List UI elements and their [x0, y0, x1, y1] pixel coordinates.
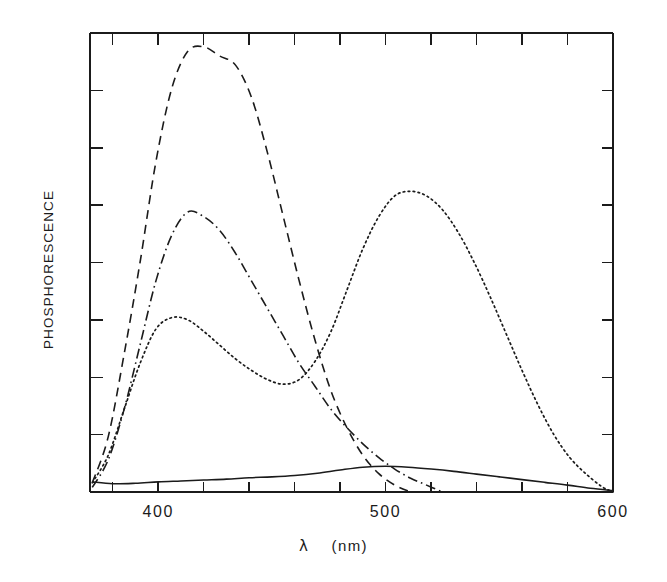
axes-frame [90, 33, 613, 492]
lambda-symbol: λ [299, 537, 309, 555]
curves-layer [92, 46, 613, 492]
plot-canvas [0, 0, 667, 582]
x-tick-label-500: 500 [370, 503, 402, 521]
x-tick-label-600: 600 [597, 503, 629, 521]
solid-baseline-curve [92, 466, 613, 490]
phosphorescence-spectrum-figure: PHOSPHORESCENCE 400500600 λ (nm) [0, 0, 667, 582]
x-axis-units: (nm) [332, 537, 368, 554]
x-tick-label-400: 400 [142, 503, 174, 521]
dashed-curve [92, 46, 410, 492]
y-axis-title: PHOSPHORESCENCE [41, 160, 56, 380]
x-axis-title: λ (nm) [0, 537, 667, 555]
